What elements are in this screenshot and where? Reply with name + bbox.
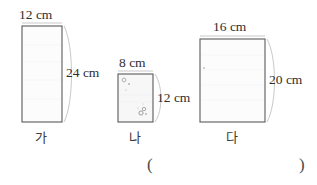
rect-ga-width-label: 12 cm	[19, 8, 52, 22]
rect-da-name-label: 다	[226, 131, 238, 144]
rect-ga-height-label: 24 cm	[66, 66, 99, 80]
rect-na	[118, 74, 153, 122]
rect-na-name-label: 나	[129, 131, 141, 144]
rect-da-height-label: 20 cm	[269, 73, 302, 87]
answer-close-paren: )	[299, 156, 305, 173]
rect-ga-name-label: 가	[35, 131, 47, 144]
rect-da-width-label: 16 cm	[213, 20, 246, 34]
rect-da	[200, 39, 265, 122]
rect-ga	[22, 26, 62, 122]
rect-na-width-label: 8 cm	[119, 56, 146, 70]
answer-open-paren: (	[147, 156, 153, 173]
figure-canvas: 12 cm 24 cm 8 cm 12 cm 16 cm 20 cm 가 나 다…	[0, 0, 317, 185]
rect-da-speckle	[203, 67, 205, 69]
rect-na-height-label: 12 cm	[157, 91, 190, 105]
